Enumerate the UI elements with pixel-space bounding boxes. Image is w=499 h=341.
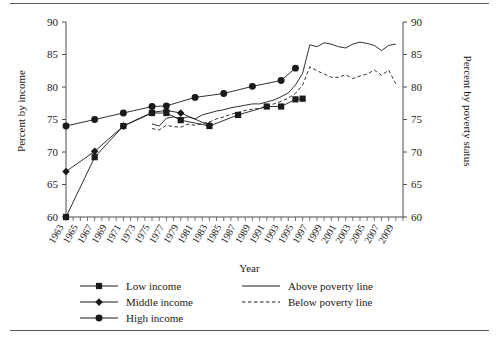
series-line: [152, 67, 396, 130]
data-point-square: [63, 214, 69, 220]
y-tick-label-left: 65: [47, 178, 59, 190]
data-point-circle: [149, 103, 156, 110]
series-above-poverty-line: [152, 42, 396, 126]
series-line: [152, 42, 396, 126]
data-point-circle: [91, 116, 98, 123]
legend-sample-circle: [78, 310, 120, 326]
data-point-circle: [192, 94, 199, 101]
series-line: [66, 99, 303, 217]
chart-figure: 6065707580859060657075808590196319651967…: [0, 0, 499, 341]
y-tick-label-right: 65: [411, 178, 423, 190]
y-tick-label-right: 85: [411, 48, 423, 60]
data-point-circle: [63, 123, 70, 130]
y-axis-right-title: Percent by poverty status: [462, 46, 474, 176]
data-point-diamond: [62, 168, 69, 176]
series-line: [66, 110, 209, 171]
legend-sample-square: [78, 278, 120, 294]
data-point-circle: [120, 110, 127, 117]
y-axis-left-title: Percent by income: [15, 46, 27, 176]
y-tick-label-right: 60: [411, 211, 423, 223]
legend-sample-none: [240, 294, 282, 310]
data-series-group: [62, 42, 396, 220]
data-point-circle: [278, 77, 285, 84]
x-tick-label: 2009: [376, 223, 396, 246]
y-tick-label-left: 75: [47, 113, 59, 125]
legend-swatch: [78, 294, 120, 310]
axes-group: 6065707580859060657075808590196319651967…: [46, 16, 422, 246]
y-tick-label-left: 85: [47, 48, 59, 60]
data-point-circle: [292, 65, 299, 72]
data-point-diamond: [177, 109, 184, 117]
series-below-poverty-line: [152, 67, 396, 130]
legend-sample-diamond: [78, 294, 120, 310]
y-tick-label-right: 70: [411, 146, 423, 158]
y-tick-label-left: 60: [47, 211, 59, 223]
legend-label: Below poverty line: [288, 294, 372, 310]
data-point-circle: [249, 83, 256, 90]
y-tick-label-right: 90: [411, 16, 423, 28]
data-point-square: [278, 103, 284, 109]
legend-swatch: [78, 278, 120, 294]
y-tick-label-left: 70: [47, 146, 59, 158]
data-point-square: [300, 96, 306, 102]
chart-legend: Low incomeMiddle incomeHigh income Above…: [78, 278, 408, 326]
y-tick-label-right: 80: [411, 81, 423, 93]
legend-swatch: [78, 310, 120, 326]
y-tick-label-right: 75: [411, 113, 423, 125]
legend-label: High income: [126, 310, 183, 326]
legend-sample-none: [240, 278, 282, 294]
x-axis-title: Year: [0, 262, 499, 274]
y-tick-label-left: 90: [47, 16, 59, 28]
data-point-circle: [163, 102, 170, 109]
legend-label: Low income: [126, 278, 181, 294]
legend-swatch: [240, 278, 282, 294]
data-point-square: [292, 96, 298, 102]
data-point-square: [264, 103, 270, 109]
legend-label: Above poverty line: [288, 278, 373, 294]
data-point-circle: [220, 90, 227, 97]
legend-label: Middle income: [126, 294, 193, 310]
legend-swatch: [240, 294, 282, 310]
series-middle-income: [62, 107, 213, 176]
y-tick-label-left: 80: [47, 81, 59, 93]
